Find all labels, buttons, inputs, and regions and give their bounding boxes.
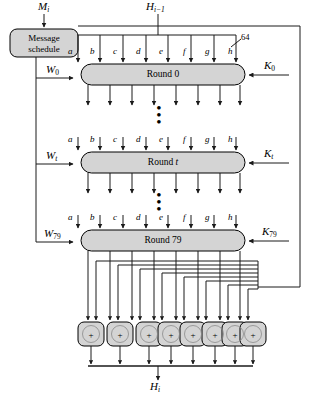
state-label-b-roundt: b — [90, 135, 95, 144]
w79-label: W79 — [44, 228, 61, 240]
state-label-f-round0: f — [183, 47, 186, 56]
state-label-c-roundt: c — [113, 135, 117, 144]
hi-output-label: Hi — [150, 381, 160, 393]
ellipsis-dot: • — [154, 206, 164, 213]
adder-symbol-6: + — [210, 330, 220, 340]
bitwidth-label: 64 — [241, 32, 250, 42]
state-label-a-roundt: a — [68, 135, 73, 144]
feedback-route-5 — [184, 277, 258, 320]
adder-symbol-7: + — [230, 330, 240, 340]
state-label-c-round0: c — [113, 47, 117, 56]
state-label-h-roundt: h — [228, 135, 233, 144]
state-label-f-roundt: f — [183, 135, 186, 144]
state-label-e-round0: e — [159, 47, 163, 56]
adder-symbol-5: + — [188, 330, 198, 340]
sha512-compression-diagram: Mi Hi−1 Message schedule 64 a b c d e f … — [0, 0, 313, 395]
state-label-a-round79: a — [68, 213, 73, 222]
feedback-route-1 — [96, 261, 258, 320]
adder-symbol-8: + — [248, 330, 258, 340]
state-label-a-round0: a — [68, 47, 73, 56]
ellipsis-dot: • — [154, 119, 164, 126]
round-t-label: Round t — [81, 157, 245, 167]
state-label-b-round79: b — [90, 213, 95, 222]
message-schedule-line1: Message — [10, 33, 78, 44]
state-label-h-round79: h — [228, 213, 233, 222]
state-label-f-round79: f — [183, 213, 186, 222]
mi-input-label: Mi — [38, 1, 49, 13]
w0-label: W0 — [46, 64, 59, 76]
state-label-c-round79: c — [113, 213, 117, 222]
state-label-h-round0: h — [228, 47, 233, 56]
hprev-input-label: Hi−1 — [146, 1, 165, 13]
adder-symbol-2: + — [115, 330, 125, 340]
state-label-g-roundt: g — [205, 135, 210, 144]
state-label-b-round0: b — [90, 47, 95, 56]
round-79-label: Round 79 — [81, 235, 245, 245]
feedback-route-8 — [248, 289, 258, 320]
k0-label: K0 — [264, 60, 275, 72]
state-label-d-round79: d — [136, 213, 141, 222]
state-label-d-roundt: d — [136, 135, 141, 144]
adder-symbol-4: + — [166, 330, 176, 340]
state-label-e-roundt: e — [159, 135, 163, 144]
round-0-label: Round 0 — [81, 69, 245, 79]
ellipsis-upper: • • • — [154, 105, 164, 126]
state-label-d-round0: d — [136, 47, 141, 56]
adder-symbol-3: + — [144, 330, 154, 340]
wt-label: Wt — [46, 150, 57, 162]
k79-label: K79 — [262, 226, 277, 238]
state-label-g-round0: g — [205, 47, 210, 56]
adder-symbol-1: + — [86, 330, 96, 340]
ellipsis-lower: • • • — [154, 192, 164, 213]
state-label-g-round79: g — [205, 213, 210, 222]
kt-label: Kt — [264, 148, 273, 160]
feedback-route-6 — [206, 281, 258, 320]
feedback-route-7 — [228, 285, 258, 320]
